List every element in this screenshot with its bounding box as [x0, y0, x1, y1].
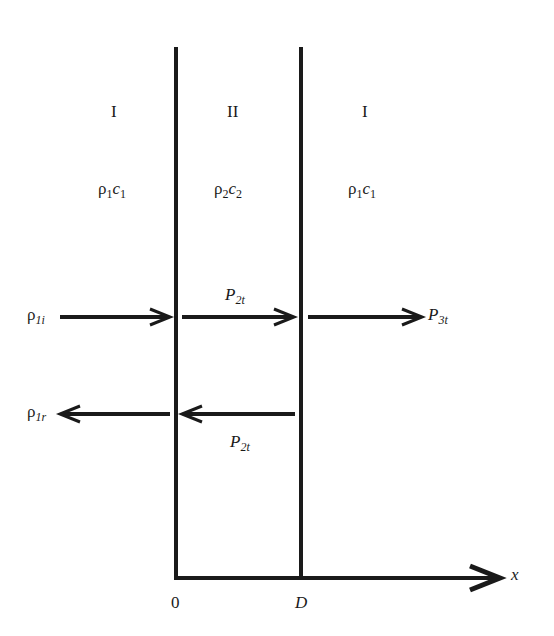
transmitted-forward-label: P2t	[225, 286, 245, 303]
impedance-middle: ρ2c2	[214, 180, 242, 197]
region-label-right: I	[362, 103, 368, 120]
region-label-left: I	[111, 103, 117, 120]
axis-boundary-label: D	[295, 594, 307, 611]
x-axis-label: x	[511, 566, 519, 583]
region-label-middle: II	[227, 103, 238, 120]
diagram-canvas	[0, 0, 554, 636]
reflected-wave-label: ρ1r	[27, 403, 46, 420]
transmitted-out-label: P3t	[428, 306, 448, 323]
impedance-left: ρ1c1	[98, 180, 126, 197]
axis-origin-label: 0	[171, 594, 180, 611]
transmitted-backward-label: P2t	[230, 433, 250, 450]
impedance-right: ρ1c1	[348, 180, 376, 197]
incident-wave-label: ρ1i	[27, 306, 45, 323]
